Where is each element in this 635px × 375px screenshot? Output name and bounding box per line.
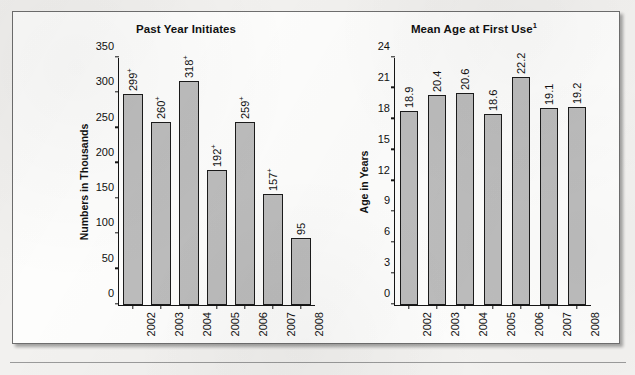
- bar-value-label: 157+: [267, 168, 279, 191]
- y-axis-tick-label: 24: [378, 40, 390, 52]
- bar-value-label: 259+: [239, 96, 251, 119]
- x-axis-tick-label-2005: 2005: [505, 312, 517, 336]
- y-axis-tick-label: 3: [384, 256, 390, 268]
- chart-title-left: Past Year Initiates: [41, 23, 331, 35]
- x-axis-tick-label-2002: 2002: [145, 312, 157, 336]
- y-axis-tick-mark: [115, 197, 119, 198]
- x-axis-tick-label-2004: 2004: [477, 312, 489, 336]
- bar-value-label: 192+: [211, 144, 223, 167]
- x-axis-tick-label-2008: 2008: [313, 312, 325, 336]
- y-axis-tick-mark: [115, 162, 119, 163]
- x-axis-tick-label-2008: 2008: [589, 312, 601, 336]
- bar-value-superscript: +: [209, 144, 218, 148]
- x-axis-tick-mark: [272, 305, 273, 309]
- y-axis-tick-mark: [391, 149, 395, 150]
- bar-value-text: 19.1: [543, 84, 555, 105]
- plot-area-left: 050100150200250300350299+2002260+2003318…: [118, 58, 315, 306]
- bar-2005: 192+: [207, 170, 227, 305]
- y-axis-title-right: Age in Years: [358, 150, 370, 213]
- y-axis-tick-label: 200: [96, 146, 114, 158]
- bar-value-label: 18.9: [403, 86, 415, 107]
- x-axis-tick-label-2004: 2004: [201, 312, 213, 336]
- y-axis-tick-mark: [115, 91, 119, 92]
- y-axis-tick-label: 6: [384, 225, 390, 237]
- y-axis-tick-mark: [115, 232, 119, 233]
- bar-value-label: 95: [295, 223, 307, 235]
- y-axis-tick-mark: [391, 210, 395, 211]
- y-axis-tick-label: 12: [378, 164, 390, 176]
- bar-value-text: 260: [155, 100, 167, 118]
- bar-2004: 20.6: [456, 93, 473, 305]
- y-axis-tick-mark: [115, 126, 119, 127]
- y-axis-tick-label: 0: [384, 287, 390, 299]
- x-axis-tick-label-2006: 2006: [533, 312, 545, 336]
- bar-value-text: 259: [239, 101, 251, 119]
- y-axis-tick-label: 100: [96, 216, 114, 228]
- y-axis-tick-mark: [391, 241, 395, 242]
- y-axis-tick-mark: [391, 56, 395, 57]
- chart-panel-past-year-initiates: Past Year Initiates Numbers in Thousands…: [41, 12, 331, 343]
- bar-2002: 18.9: [400, 111, 417, 306]
- bar-value-superscript: +: [153, 96, 162, 100]
- x-axis-tick-label-2003: 2003: [449, 312, 461, 336]
- y-axis-tick-label: 50: [102, 252, 114, 264]
- y-axis-tick-label: 300: [96, 75, 114, 87]
- bar-value-label: 18.6: [487, 89, 499, 110]
- bar-value-label: 19.1: [543, 84, 555, 105]
- x-axis-tick-mark: [300, 305, 301, 309]
- y-axis-tick-mark: [391, 118, 395, 119]
- x-axis-tick-label-2007: 2007: [561, 312, 573, 336]
- x-axis-tick-mark: [492, 305, 493, 309]
- y-axis-tick-mark: [115, 303, 119, 304]
- bar-2006: 22.2: [512, 77, 529, 305]
- y-axis-tick-label: 15: [378, 133, 390, 145]
- x-axis-tick-mark: [408, 305, 409, 309]
- y-axis-tick-mark: [391, 272, 395, 273]
- x-axis-tick-mark: [132, 305, 133, 309]
- figure-frame: Past Year Initiates Numbers in Thousands…: [12, 11, 620, 344]
- bar-value-text: 19.2: [571, 83, 583, 104]
- y-axis-tick-mark: [391, 87, 395, 88]
- chart-title-right-text: Mean Age at First Use: [411, 23, 533, 35]
- plot-area-right: 0369121518212418.9200220.4200320.6200418…: [394, 58, 591, 306]
- x-axis-tick-mark: [576, 305, 577, 309]
- bar-value-text: 157: [267, 173, 279, 191]
- bar-value-label: 20.6: [459, 69, 471, 90]
- bar-value-label: 299+: [127, 68, 139, 91]
- bar-2005: 18.6: [484, 114, 501, 305]
- x-axis-tick-mark: [520, 305, 521, 309]
- bar-value-label: 20.4: [431, 71, 443, 92]
- bar-2008: 95: [291, 238, 311, 305]
- bar-value-text: 192: [211, 148, 223, 166]
- y-axis-title-left: Numbers in Thousands: [78, 123, 90, 240]
- y-axis-tick-mark: [391, 303, 395, 304]
- bar-value-text: 18.6: [487, 89, 499, 110]
- x-axis-tick-mark: [216, 305, 217, 309]
- y-axis-tick-label: 150: [96, 181, 114, 193]
- bar-value-superscript: +: [265, 168, 274, 172]
- bar-value-text: 20.4: [431, 71, 443, 92]
- x-axis-tick-mark: [244, 305, 245, 309]
- bar-2006: 259+: [235, 122, 255, 305]
- bar-value-text: 95: [295, 223, 307, 235]
- x-axis-tick-label-2002: 2002: [421, 312, 433, 336]
- bar-value-superscript: +: [181, 55, 190, 59]
- x-axis-tick-label-2007: 2007: [285, 312, 297, 336]
- y-axis-tick-mark: [115, 268, 119, 269]
- chart-title-left-text: Past Year Initiates: [136, 23, 236, 35]
- x-axis-tick-mark: [160, 305, 161, 309]
- chart-title-right: Mean Age at First Use1: [331, 23, 617, 35]
- bar-value-text: 20.6: [459, 69, 471, 90]
- x-axis-tick-label-2003: 2003: [173, 312, 185, 336]
- y-axis-tick-mark: [115, 56, 119, 57]
- bar-2008: 19.2: [568, 107, 585, 305]
- y-axis-tick-label: 0: [108, 287, 114, 299]
- bar-2002: 299+: [123, 94, 143, 305]
- x-axis-tick-mark: [464, 305, 465, 309]
- bar-value-superscript: +: [125, 68, 134, 72]
- y-axis-tick-label: 21: [378, 71, 390, 83]
- x-axis-tick-mark: [188, 305, 189, 309]
- bar-value-text: 318: [183, 59, 195, 77]
- y-axis-tick-label: 250: [96, 111, 114, 123]
- bar-2003: 260+: [151, 122, 171, 305]
